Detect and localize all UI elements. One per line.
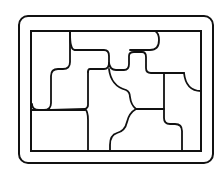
puzzle-diagram: Sliding block puzzle tray <box>0 0 223 174</box>
piece-notch <box>109 52 184 73</box>
piece-center-lower-edge <box>110 109 136 151</box>
piece-right-top-curve <box>184 73 201 91</box>
outer-frame <box>19 16 213 163</box>
piece-top-bar-edge <box>70 31 109 72</box>
piece-top-bar-right <box>75 31 159 50</box>
piece-upper-middle-edge <box>51 72 88 110</box>
piece-top-left-edge <box>32 31 70 110</box>
piece-right-column-edge <box>164 73 182 151</box>
piece-center-left-edge <box>85 109 88 151</box>
puzzle-svg <box>0 0 223 174</box>
piece-center-cross-edge <box>109 69 164 109</box>
